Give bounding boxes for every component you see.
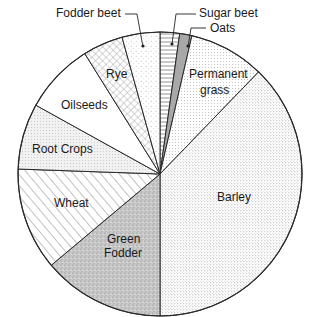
fodder-beet-marker: [141, 44, 144, 47]
label-green-fodder-line2: Fodder: [104, 246, 142, 260]
pie-chart: Fodder beet Sugar beet Oats Permanent gr…: [0, 0, 309, 317]
pie-slices: [18, 32, 302, 316]
label-green-fodder-line1: Green: [107, 232, 140, 246]
label-sugar-beet: Sugar beet: [199, 6, 258, 20]
label-fodder-beet: Fodder beet: [56, 6, 121, 20]
oats-marker: [186, 44, 189, 47]
label-root-crops: Root Crops: [32, 142, 93, 156]
label-permanent-grass-line2: grass: [200, 83, 229, 97]
label-wheat: Wheat: [54, 196, 89, 210]
label-rye: Rye: [106, 67, 128, 81]
label-permanent-grass-line1: Permanent: [189, 67, 248, 81]
label-oats: Oats: [210, 21, 235, 35]
sugar-beet-marker: [170, 42, 173, 45]
label-oilseeds: Oilseeds: [61, 98, 108, 112]
label-barley: Barley: [217, 190, 251, 204]
